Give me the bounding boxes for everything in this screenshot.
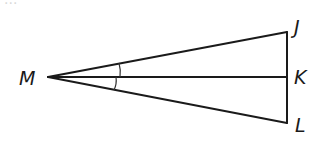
label-l: L (295, 114, 306, 136)
angle-mark-jmk (119, 63, 120, 77)
segment-ml (48, 77, 287, 123)
label-m: M (19, 67, 35, 89)
triangle-diagram: M J K L (0, 0, 324, 150)
angle-mark-kml (114, 77, 116, 90)
label-j: J (290, 16, 300, 38)
label-k: K (294, 66, 308, 88)
segment-mj (48, 32, 287, 77)
